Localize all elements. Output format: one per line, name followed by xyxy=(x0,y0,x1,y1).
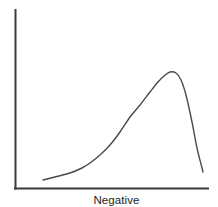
plot-canvas xyxy=(0,0,218,207)
distribution-curve xyxy=(43,72,203,180)
chart-figure: Negative xyxy=(0,0,218,207)
